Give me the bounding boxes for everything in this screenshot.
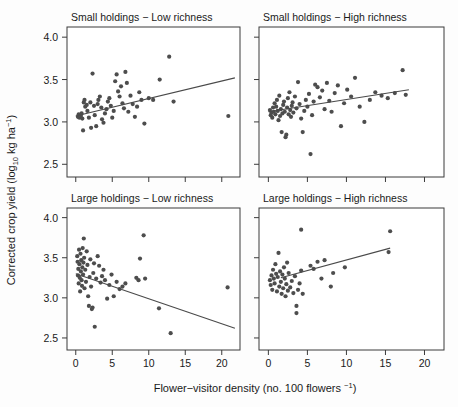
data-point (277, 94, 281, 98)
data-point (123, 70, 127, 74)
data-point (133, 115, 137, 119)
data-point (123, 281, 127, 285)
data-point (310, 113, 314, 117)
data-point (282, 265, 286, 269)
data-point (401, 68, 405, 72)
y-tick-label-small-low-3.5: 3.5 (43, 74, 58, 86)
data-point (333, 91, 337, 95)
data-point (80, 116, 84, 120)
data-point (296, 288, 300, 292)
panel-title-large-high: Large holdings − High richness (263, 192, 407, 204)
data-point (294, 311, 298, 315)
data-point (151, 98, 155, 102)
data-point (115, 280, 119, 284)
panel-small-high: Small holdings − High richness (254, 11, 444, 182)
x-axis-title-tail: ) (353, 382, 357, 394)
data-point (93, 325, 97, 329)
data-point (84, 280, 88, 284)
data-point (270, 288, 274, 292)
data-point (158, 77, 162, 81)
data-point (320, 88, 324, 92)
data-point (269, 283, 273, 287)
data-point (368, 98, 372, 102)
data-point (117, 94, 121, 98)
data-point (308, 152, 312, 156)
data-point (285, 260, 289, 264)
y-tick-label-large-low-3.5: 3.5 (43, 252, 58, 264)
data-point (85, 263, 89, 267)
panel-large-high: Large holdings − High richness05101520 (254, 192, 444, 369)
data-point (345, 88, 349, 92)
data-point (82, 286, 86, 290)
data-point (86, 294, 90, 298)
data-point (119, 84, 123, 88)
data-point (90, 305, 94, 309)
data-point (101, 268, 105, 272)
y-axis-title-part1: Corrected crop yield (log (5, 165, 17, 285)
data-point (304, 98, 308, 102)
data-point (77, 262, 81, 266)
data-point (283, 294, 287, 298)
data-point (290, 279, 294, 283)
y-tick-label-large-low-4: 4.0 (43, 212, 58, 224)
x-axis-title-main: Flower−visitor density (no. 100 flowers (154, 382, 344, 394)
data-point (87, 304, 91, 308)
y-axis-title-group: Corrected crop yield (log10 kg ha−1) (4, 115, 20, 285)
data-point (288, 285, 292, 289)
data-point (318, 95, 322, 99)
data-point (128, 94, 132, 98)
data-point (315, 85, 319, 89)
data-point (92, 104, 96, 108)
data-point (404, 93, 408, 97)
data-point (138, 256, 142, 260)
y-axis-title-sup: −1 (4, 118, 13, 127)
data-point (167, 55, 171, 59)
data-point (315, 260, 319, 264)
data-point (169, 331, 173, 335)
data-point (322, 107, 326, 111)
x-tick-label-large-low-20: 20 (216, 357, 228, 369)
data-point (307, 92, 311, 96)
data-point (81, 128, 85, 132)
x-tick-label-large-high-15: 15 (380, 357, 392, 369)
panel-title-small-low: Small holdings − Low richness (71, 11, 213, 23)
data-point (120, 285, 124, 289)
data-point (362, 120, 366, 124)
data-point (85, 249, 89, 253)
data-point (289, 115, 293, 119)
data-point (103, 111, 107, 115)
data-point (78, 289, 82, 293)
y-tick-label-small-low-3: 3.0 (43, 116, 58, 128)
y-tick-label-small-low-2.5: 2.5 (43, 158, 58, 170)
data-point (287, 271, 291, 275)
data-point (322, 258, 326, 262)
data-point (283, 110, 287, 114)
data-point (80, 278, 84, 282)
data-point (113, 79, 117, 83)
panel-small-low: Small holdings − Low richness2.53.03.54.… (43, 11, 240, 182)
data-point (122, 106, 126, 110)
data-point (280, 292, 284, 296)
data-point (342, 101, 346, 105)
x-tick-label-large-low-10: 10 (143, 357, 155, 369)
x-tick-label-large-low-5: 5 (109, 357, 115, 369)
figure-container: Corrected crop yield (log10 kg ha−1) Flo… (0, 0, 458, 407)
data-point (291, 110, 295, 114)
data-point (353, 76, 357, 80)
data-point (143, 277, 147, 281)
data-point (277, 285, 281, 289)
y-axis-title-sub: 10 (11, 157, 20, 165)
data-point (276, 118, 280, 122)
x-axis-title: Flower−visitor density (no. 100 flowers … (154, 381, 357, 394)
data-point (349, 94, 353, 98)
data-point (107, 96, 111, 100)
data-point (88, 257, 92, 261)
data-point (274, 105, 278, 109)
scatter-panel-figure: Corrected crop yield (log10 kg ha−1) Flo… (0, 0, 458, 407)
data-point (386, 96, 390, 100)
data-point (281, 286, 285, 290)
data-point (294, 304, 298, 308)
panels-layer: Small holdings − Low richness2.53.03.54.… (43, 11, 444, 369)
data-point (81, 260, 85, 264)
data-point (373, 90, 377, 94)
